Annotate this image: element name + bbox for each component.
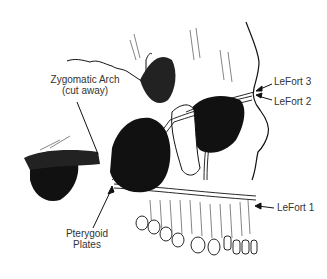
skull-illustration (0, 0, 327, 279)
label-pterygoid-line1: Pterygoid (62, 228, 112, 239)
teeth (136, 216, 257, 255)
label-zygomatic-arch-line1: Zygomatic Arch (50, 74, 120, 85)
label-zygomatic-arch: Zygomatic Arch (cut away) (50, 74, 120, 96)
label-pterygoid-line2: Plates (62, 239, 112, 250)
leader-lines (77, 84, 274, 228)
temporal-shadow (140, 57, 175, 103)
label-lefort3: LeFort 3 (274, 76, 311, 87)
label-zygomatic-arch-line2: (cut away) (50, 85, 120, 96)
label-pterygoid-plates: Pterygoid Plates (62, 228, 112, 250)
label-lefort1: LeFort 1 (277, 202, 314, 213)
label-lefort2: LeFort 2 (274, 96, 311, 107)
lefort-diagram: Zygomatic Arch (cut away) Pterygoid Plat… (0, 0, 327, 279)
